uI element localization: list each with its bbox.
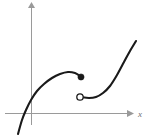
x-axis-label: x [137,109,142,119]
x-axis-arrow-icon [127,110,134,117]
y-axis-arrow-icon [28,2,35,8]
closed-endpoint-icon [78,74,84,80]
curve-right-branch [81,41,136,98]
graph-canvas: x [0,0,151,135]
endpoint-markers [77,74,84,100]
graph-figure: x [0,0,151,135]
function-curves [18,41,136,134]
y-axis [28,2,35,125]
open-endpoint-icon [77,94,83,100]
curve-left-branch [18,72,80,134]
